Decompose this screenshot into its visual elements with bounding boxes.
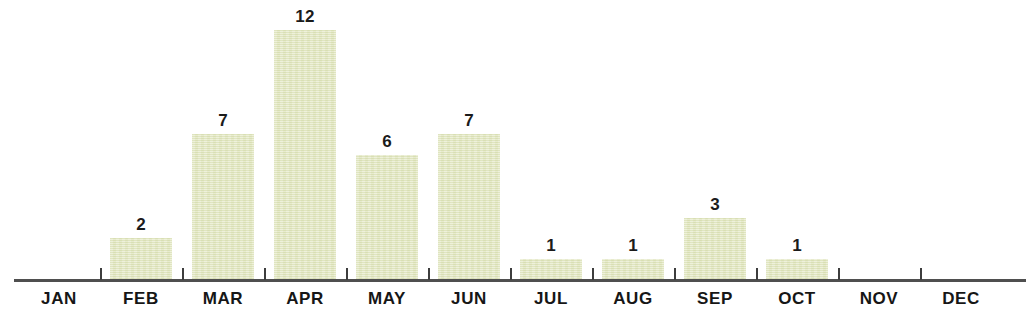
axis-tick [100,268,102,280]
bar-slot: 12 [264,0,346,281]
x-axis-line [14,279,1026,282]
axis-tick [264,268,266,280]
bar-value-label: 1 [510,237,592,254]
category-label: MAY [346,288,428,310]
category-label: FEB [100,288,182,310]
bar-value-label: 7 [182,112,264,129]
bar-slot: 1 [756,0,838,281]
bar[interactable] [192,134,254,280]
bar-value-label: 3 [674,196,756,213]
axis-tick [920,268,922,280]
bar[interactable] [766,259,828,280]
bar-value-label: 12 [264,8,346,25]
category-label: JUL [510,288,592,310]
bar-slot: 2 [100,0,182,281]
x-axis-labels: JANFEBMARAPRMAYJUNJULAUGSEPOCTNOVDEC [18,288,1010,318]
plot-area: 2712671131 [0,0,1030,281]
bars-layer: 2712671131 [18,0,1010,281]
bar-slot [18,0,100,281]
bar-value-label: 1 [592,237,674,254]
bar[interactable] [356,155,418,280]
axis-tick [346,268,348,280]
bar-value-label: 7 [428,112,510,129]
category-label: APR [264,288,346,310]
category-label: AUG [592,288,674,310]
bar-slot [920,0,1002,281]
bar-value-label: 6 [346,133,428,150]
axis-tick [182,268,184,280]
bar-slot: 3 [674,0,756,281]
axis-tick [674,268,676,280]
axis-tick [592,268,594,280]
category-label: OCT [756,288,838,310]
category-label: SEP [674,288,756,310]
bar-slot: 6 [346,0,428,281]
bar[interactable] [520,259,582,280]
bar[interactable] [684,218,746,280]
bar-slot: 1 [510,0,592,281]
bar-value-label: 2 [100,216,182,233]
category-label: JAN [18,288,100,310]
bar[interactable] [274,30,336,280]
axis-tick [428,268,430,280]
axis-tick [510,268,512,280]
category-label: JUN [428,288,510,310]
bar-chart: 2712671131 JANFEBMARAPRMAYJUNJULAUGSEPOC… [0,0,1030,326]
bar-slot: 7 [428,0,510,281]
bar-slot [838,0,920,281]
bar[interactable] [110,238,172,280]
category-label: NOV [838,288,920,310]
category-label: MAR [182,288,264,310]
bar-slot: 1 [592,0,674,281]
axis-tick [838,268,840,280]
bar-slot: 7 [182,0,264,281]
bar[interactable] [438,134,500,280]
axis-tick [756,268,758,280]
bar[interactable] [602,259,664,280]
bar-value-label: 1 [756,237,838,254]
category-label: DEC [920,288,1002,310]
